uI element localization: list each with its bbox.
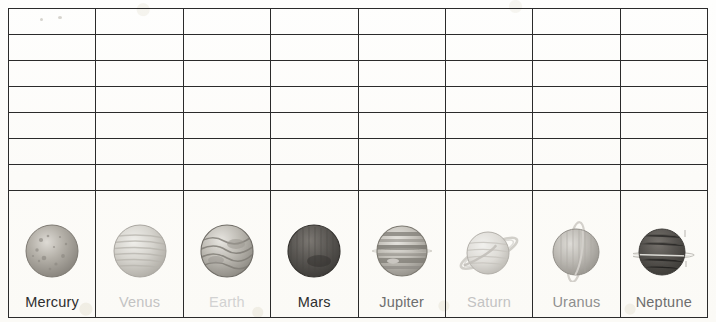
planet-mercury-icon <box>21 220 83 282</box>
blank-cell[interactable] <box>533 35 620 61</box>
planet-venus-icon <box>109 220 171 282</box>
planet-label-jupiter: Jupiter <box>379 294 424 310</box>
blank-cell[interactable] <box>9 87 96 113</box>
blank-cell[interactable] <box>620 165 707 191</box>
blank-cell[interactable] <box>445 61 532 87</box>
grid-body: Mercury <box>9 9 708 318</box>
table-row-blank <box>9 9 708 35</box>
blank-cell[interactable] <box>533 61 620 87</box>
blank-cell[interactable] <box>445 35 532 61</box>
planet-cell-uranus[interactable]: Uranus <box>533 191 620 318</box>
blank-cell[interactable] <box>271 139 358 165</box>
blank-cell[interactable] <box>358 139 445 165</box>
planet-saturn-icon <box>458 220 520 282</box>
table-row-blank <box>9 35 708 61</box>
blank-cell[interactable] <box>445 165 532 191</box>
blank-cell[interactable] <box>620 113 707 139</box>
blank-cell[interactable] <box>183 9 270 35</box>
planet-jupiter-icon <box>371 220 433 282</box>
planet-label-mars: Mars <box>298 294 331 310</box>
blank-cell[interactable] <box>183 139 270 165</box>
blank-cell[interactable] <box>271 9 358 35</box>
blank-cell[interactable] <box>96 35 183 61</box>
planet-label-earth: Earth <box>209 294 245 310</box>
blank-cell[interactable] <box>358 165 445 191</box>
blank-cell[interactable] <box>9 165 96 191</box>
table-row-planets: Mercury <box>9 191 708 318</box>
planet-label-neptune: Neptune <box>636 294 692 310</box>
planet-cell-saturn[interactable]: Saturn <box>445 191 532 318</box>
blank-cell[interactable] <box>620 61 707 87</box>
blank-cell[interactable] <box>96 61 183 87</box>
blank-cell[interactable] <box>533 113 620 139</box>
planet-earth-icon <box>196 220 258 282</box>
blank-cell[interactable] <box>96 139 183 165</box>
blank-cell[interactable] <box>358 87 445 113</box>
blank-cell[interactable] <box>9 35 96 61</box>
planet-cell-neptune[interactable]: Neptune <box>620 191 707 318</box>
planet-cell-jupiter[interactable]: Jupiter <box>358 191 445 318</box>
blank-cell[interactable] <box>271 87 358 113</box>
planet-uranus-icon <box>545 220 607 282</box>
blank-cell[interactable] <box>183 61 270 87</box>
blank-cell[interactable] <box>445 87 532 113</box>
blank-cell[interactable] <box>533 9 620 35</box>
blank-cell[interactable] <box>620 35 707 61</box>
table-row-blank <box>9 87 708 113</box>
table-row-blank <box>9 165 708 191</box>
planet-label-uranus: Uranus <box>552 294 600 310</box>
blank-cell[interactable] <box>9 139 96 165</box>
planet-cell-mercury[interactable]: Mercury <box>9 191 96 318</box>
table-row-blank <box>9 113 708 139</box>
worksheet-table-wrapper: Mercury <box>8 8 708 309</box>
blank-cell[interactable] <box>533 139 620 165</box>
blank-cell[interactable] <box>533 87 620 113</box>
blank-cell[interactable] <box>9 113 96 139</box>
planet-neptune-icon <box>633 220 695 282</box>
blank-cell[interactable] <box>96 165 183 191</box>
blank-cell[interactable] <box>620 87 707 113</box>
blank-cell[interactable] <box>358 9 445 35</box>
planet-cell-venus[interactable]: Venus <box>96 191 183 318</box>
planet-label-mercury: Mercury <box>25 294 79 310</box>
blank-cell[interactable] <box>271 113 358 139</box>
table-row-blank <box>9 139 708 165</box>
blank-cell[interactable] <box>445 9 532 35</box>
blank-cell[interactable] <box>271 61 358 87</box>
planet-mars-icon <box>283 220 345 282</box>
blank-cell[interactable] <box>96 87 183 113</box>
blank-cell[interactable] <box>358 35 445 61</box>
blank-cell[interactable] <box>183 87 270 113</box>
blank-cell[interactable] <box>96 9 183 35</box>
blank-cell[interactable] <box>620 139 707 165</box>
blank-cell[interactable] <box>271 165 358 191</box>
table-row-blank <box>9 61 708 87</box>
blank-cell[interactable] <box>445 139 532 165</box>
blank-cell[interactable] <box>620 9 707 35</box>
blank-cell[interactable] <box>358 61 445 87</box>
blank-cell[interactable] <box>9 9 96 35</box>
blank-cell[interactable] <box>9 61 96 87</box>
planet-cell-mars[interactable]: Mars <box>271 191 358 318</box>
planet-label-saturn: Saturn <box>467 294 511 310</box>
planet-cell-earth[interactable]: Earth <box>183 191 270 318</box>
blank-cell[interactable] <box>96 113 183 139</box>
worksheet-grid: Mercury <box>8 8 708 318</box>
blank-cell[interactable] <box>271 35 358 61</box>
blank-cell[interactable] <box>358 113 445 139</box>
blank-cell[interactable] <box>183 35 270 61</box>
planet-label-venus: Venus <box>119 294 160 310</box>
blank-cell[interactable] <box>445 113 532 139</box>
blank-cell[interactable] <box>533 165 620 191</box>
blank-cell[interactable] <box>183 165 270 191</box>
blank-cell[interactable] <box>183 113 270 139</box>
